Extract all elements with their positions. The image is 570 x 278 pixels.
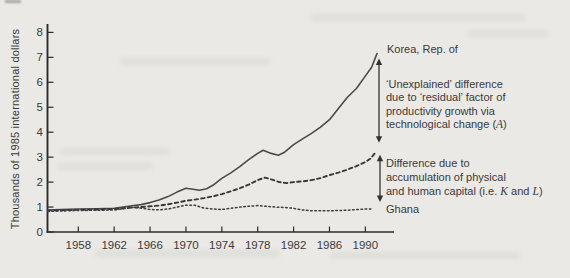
korea-line <box>48 54 377 210</box>
annotation-line: due to ‘residual’ factor of <box>386 91 507 104</box>
y-axis-title: Thousands of 1985 international dollars <box>9 29 21 229</box>
x-tick-label: 1958 <box>66 239 92 251</box>
y-tick-label: 0 <box>37 226 43 238</box>
y-tick-label: 3 <box>37 151 43 163</box>
y-tick-label: 1 <box>37 201 43 213</box>
y-tick-label: 4 <box>37 126 44 138</box>
x-tick-label: 1978 <box>245 239 271 251</box>
y-tick-label: 5 <box>37 101 43 113</box>
x-tick-label: 1966 <box>137 239 163 251</box>
annotation-line: and human capital (i.e. K and L) <box>386 185 543 199</box>
y-tick-label: 2 <box>37 176 43 188</box>
x-tick-label: 1986 <box>317 239 343 251</box>
line-chart-canvas: 0123456781958196219661970197419781982198… <box>0 0 570 278</box>
annotation-line: accumulation of physical <box>386 171 543 185</box>
annotation-line: productivity growth via <box>386 105 507 118</box>
y-tick-label: 8 <box>37 26 43 38</box>
counterfactual-line <box>48 152 376 211</box>
x-tick-label: 1990 <box>353 239 379 251</box>
y-tick-label: 7 <box>37 51 43 63</box>
x-tick-label: 1962 <box>101 239 127 251</box>
korea-series-label: Korea, Rep. of <box>387 43 458 56</box>
figure-page: 0123456781958196219661970197419781982198… <box>0 0 570 278</box>
capital-accumulation-annotation: Difference due toaccumulation of physica… <box>386 157 543 199</box>
x-tick-label: 1974 <box>209 239 235 251</box>
capital-gap-arrow-head-down <box>377 196 383 203</box>
unexplained-difference-annotation: ‘Unexplained’ differencedue to ‘residual… <box>386 78 507 132</box>
unexplained-gap-arrow-head-down <box>376 136 382 143</box>
annotation-line: Difference due to <box>386 157 543 171</box>
capital-gap-arrow-head-up <box>377 155 383 162</box>
x-tick-label: 1970 <box>173 239 199 251</box>
annotation-line: ‘Unexplained’ difference <box>386 78 507 91</box>
annotation-line: technological change (A) <box>386 118 507 131</box>
ghana-series-label: Ghana <box>386 203 419 216</box>
y-tick-label: 6 <box>37 76 43 88</box>
unexplained-gap-arrow-head-up <box>376 59 382 66</box>
x-tick-label: 1982 <box>281 239 307 251</box>
